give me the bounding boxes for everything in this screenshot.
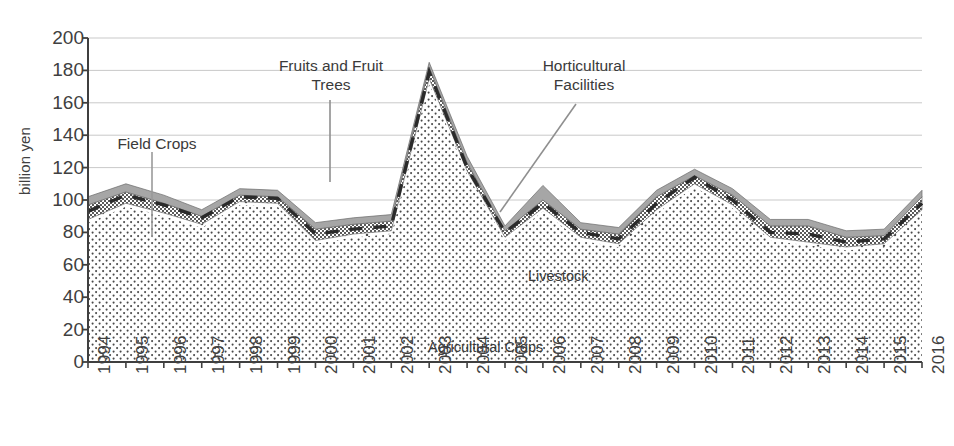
x-tick-2000: 2000 [322, 335, 342, 374]
x-tick-1999: 1999 [285, 335, 305, 374]
x-tick-2013: 2013 [815, 335, 835, 374]
annotation-field-crops: Field Crops [82, 134, 232, 153]
x-tick-2001: 2001 [360, 335, 380, 374]
x-tick-2002: 2002 [398, 335, 418, 374]
x-tick-2010: 2010 [702, 335, 722, 374]
annotation-agricultural-crops: Agricultural Crops [428, 339, 543, 355]
x-tick-1994: 1994 [95, 335, 115, 374]
x-tick-2016: 2016 [929, 335, 949, 374]
x-tick-1998: 1998 [247, 335, 267, 374]
x-tick-1997: 1997 [209, 335, 229, 374]
x-tick-2006: 2006 [550, 335, 570, 374]
stacked-area-chart: billion yen 200180160140120100806040200 [0, 0, 954, 446]
annotation-livestock: Livestock [528, 268, 588, 284]
x-tick-2007: 2007 [588, 335, 608, 374]
x-tick-2015: 2015 [891, 335, 911, 374]
annotation-horticultural-facilities: Horticultural Facilities [500, 56, 668, 95]
area-series [88, 62, 922, 362]
x-tick-1995: 1995 [133, 335, 153, 374]
x-tick-2011: 2011 [739, 337, 759, 374]
x-tick-1996: 1996 [171, 335, 191, 374]
x-tick-2014: 2014 [853, 335, 873, 374]
x-tick-2008: 2008 [626, 335, 646, 374]
x-tick-2012: 2012 [777, 335, 797, 374]
x-tick-2009: 2009 [664, 335, 684, 374]
annotation-fruits-and-fruit-trees: Fruits and Fruit Trees [246, 56, 416, 95]
plot-area [0, 0, 954, 446]
